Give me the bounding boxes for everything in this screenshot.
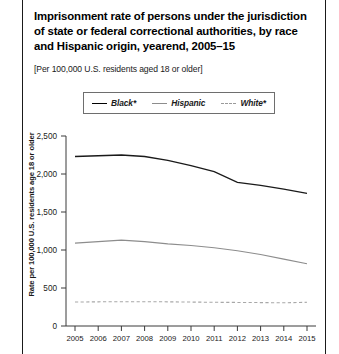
- series-line-black: [75, 155, 307, 193]
- legend-line-white-icon: [221, 103, 236, 104]
- x-tick-label: 2015: [298, 334, 315, 343]
- x-tick-label: 2008: [136, 334, 153, 343]
- y-tick-label: 500: [43, 284, 57, 293]
- y-tick-label: 2,500: [37, 132, 58, 141]
- y-tick-marks: [61, 136, 66, 326]
- x-tick-label: 2012: [229, 334, 246, 343]
- legend-line-black-icon: [92, 103, 107, 104]
- plot-area: Rate per 100,000 U.S. residents age 18 o…: [0, 122, 339, 354]
- chart-svg: 05001,0001,5002,0002,500 200520062007200…: [0, 122, 339, 354]
- x-tick-label: 2014: [275, 334, 293, 343]
- legend-item-white: White*: [221, 98, 265, 108]
- x-tick-label: 2011: [206, 334, 223, 343]
- page-title: Imprisonment rate of persons under the j…: [34, 0, 317, 54]
- x-tick-label: 2006: [90, 334, 107, 343]
- x-tick-label: 2007: [113, 334, 130, 343]
- series-line-hispanic: [75, 240, 307, 264]
- series-line-white: [75, 302, 307, 303]
- y-tick-labels: 05001,0001,5002,0002,500: [37, 132, 58, 331]
- legend-label-white: White*: [240, 98, 265, 108]
- series-group: [75, 155, 307, 303]
- x-axis-group: 2005200620072008200920102011201220132014…: [66, 326, 316, 343]
- legend-item-hispanic: Hispanic: [152, 98, 205, 108]
- y-tick-label: 1,500: [37, 208, 58, 217]
- figure-subtitle: [Per 100,000 U.S. residents aged 18 or o…: [34, 54, 317, 74]
- x-tick-label: 2013: [252, 334, 269, 343]
- x-tick-labels: 2005200620072008200920102011201220132014…: [66, 334, 315, 343]
- figure-header: Imprisonment rate of persons under the j…: [34, 0, 317, 75]
- legend-line-hispanic-icon: [152, 103, 167, 104]
- x-tick-label: 2005: [66, 334, 83, 343]
- x-tick-label: 2009: [159, 334, 176, 343]
- x-tick-marks: [75, 326, 307, 331]
- y-axis-group: 05001,0001,5002,0002,500: [37, 132, 67, 331]
- x-tick-label: 2010: [182, 334, 199, 343]
- figure-container: Imprisonment rate of persons under the j…: [0, 0, 339, 354]
- chart-legend: Black* Hispanic White*: [83, 92, 275, 114]
- legend-label-hispanic: Hispanic: [171, 98, 205, 108]
- y-tick-label: 2,000: [37, 170, 58, 179]
- y-tick-label: 1,000: [37, 246, 58, 255]
- y-tick-label: 0: [52, 322, 57, 331]
- legend-label-black: Black*: [111, 98, 136, 108]
- legend-item-black: Black*: [92, 98, 136, 108]
